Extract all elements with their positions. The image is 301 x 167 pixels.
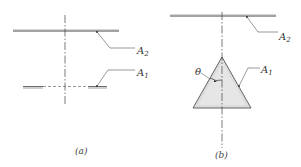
leader-b-a2 xyxy=(247,17,278,32)
caption-b: (b) xyxy=(215,150,228,160)
plate-b-a2 xyxy=(170,14,276,17)
caption-a: (a) xyxy=(75,146,88,156)
leader-a2 xyxy=(97,32,135,48)
panel-a: A2 A1 (a) xyxy=(13,15,149,156)
label-b-a1: A1 xyxy=(260,64,273,77)
label-a1: A1 xyxy=(136,67,149,80)
diagram-canvas: A2 A1 (a) θ A2 A1 (b) xyxy=(0,0,301,167)
leader-b-a1 xyxy=(239,68,260,86)
panel-b: θ A2 A1 (b) xyxy=(170,12,291,160)
theta-label: θ xyxy=(195,66,201,77)
label-a2: A2 xyxy=(136,45,149,58)
figure-root: A2 A1 (a) θ A2 A1 (b) xyxy=(0,0,301,167)
theta-leader xyxy=(201,73,210,79)
label-b-a2: A2 xyxy=(278,31,291,44)
leader-a1 xyxy=(97,70,135,86)
plate-a2 xyxy=(13,29,119,32)
